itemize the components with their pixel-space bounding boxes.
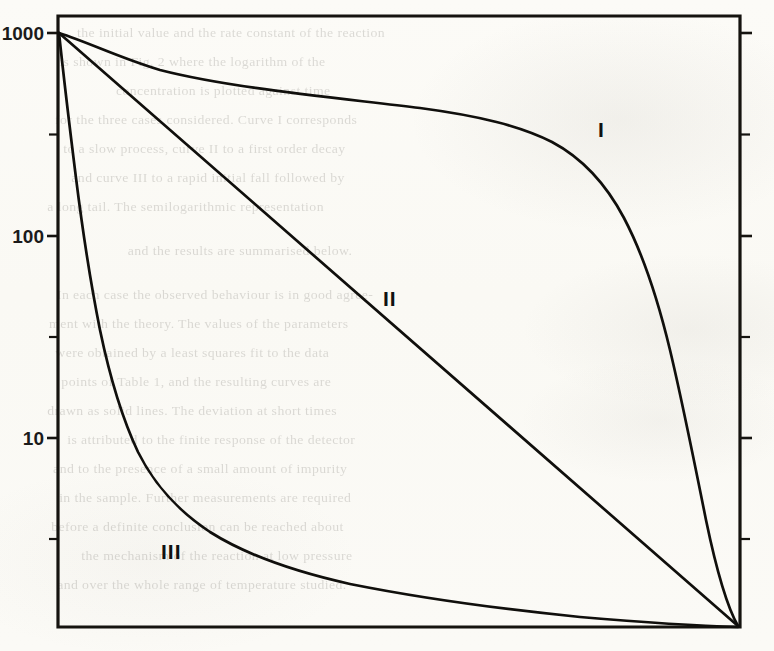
y-axis-right-ticks <box>740 33 752 539</box>
figure-page: the initial value and the rate constant … <box>0 0 774 651</box>
curve-label-three: III <box>161 540 182 563</box>
y-axis-left-ticks <box>47 33 58 539</box>
curve-two <box>59 33 738 626</box>
semilog-plot: 1000 100 10 I II III <box>0 0 774 651</box>
plot-frame <box>58 16 740 627</box>
y-axis-tick-label-10: 10 <box>23 428 44 449</box>
y-axis-tick-label-100: 100 <box>12 226 44 247</box>
curve-label-two: II <box>383 287 397 310</box>
y-axis-tick-label-1000: 1000 <box>2 23 44 44</box>
curve-label-one: I <box>598 118 605 141</box>
